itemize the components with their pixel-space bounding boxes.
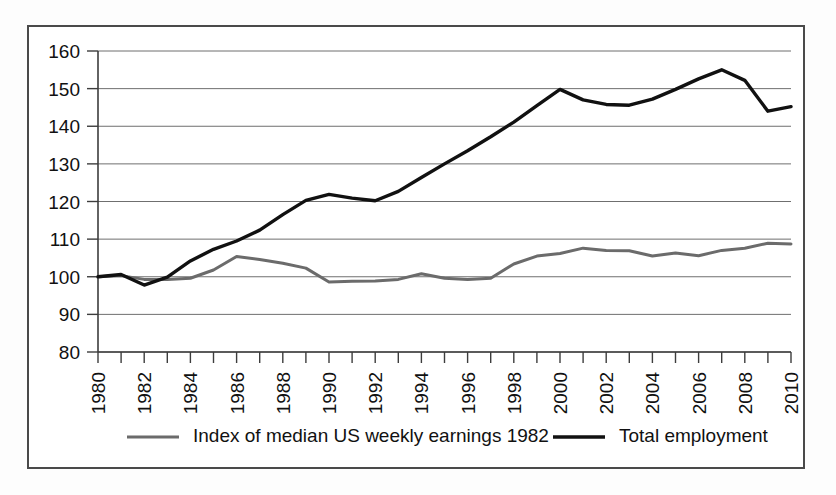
x-tick-group xyxy=(98,352,791,363)
gridline-group xyxy=(98,51,791,352)
y-tick-label: 160 xyxy=(48,41,80,62)
chart-frame: 8090100110120130140150160 19801982198419… xyxy=(27,25,805,469)
y-tick-label: 130 xyxy=(48,154,80,175)
line-chart: 8090100110120130140150160 19801982198419… xyxy=(29,27,803,467)
series-line-2 xyxy=(98,70,791,285)
chart-figure: 8090100110120130140150160 19801982198419… xyxy=(0,0,836,495)
x-tick-label: 1992 xyxy=(365,372,386,414)
y-tick-label: 150 xyxy=(48,79,80,100)
x-tick-label: 1980 xyxy=(88,372,109,414)
x-tick-label: 2002 xyxy=(596,372,617,414)
series-line-1 xyxy=(98,243,791,282)
y-tick-label: 120 xyxy=(48,192,80,213)
y-tick-group xyxy=(87,51,98,352)
x-tick-label: 1984 xyxy=(180,372,201,415)
y-tick-label: 80 xyxy=(59,342,80,363)
x-tick-label: 1990 xyxy=(319,372,340,414)
x-tick-label: 2004 xyxy=(642,372,663,415)
x-tick-label: 1986 xyxy=(227,372,248,414)
x-tick-label: 2008 xyxy=(735,372,756,414)
y-tick-label-group: 8090100110120130140150160 xyxy=(48,41,80,363)
series-group xyxy=(98,70,791,285)
x-tick-label: 2000 xyxy=(550,372,571,414)
y-tick-label: 100 xyxy=(48,267,80,288)
x-tick-label: 1996 xyxy=(458,372,479,414)
legend-group: Index of median US weekly earnings 1982T… xyxy=(127,425,769,446)
y-tick-label: 110 xyxy=(50,229,80,250)
x-tick-label: 2010 xyxy=(781,372,802,414)
x-tick-label: 1988 xyxy=(273,372,294,414)
x-tick-label-group: 1980198219841986198819901992199419961998… xyxy=(88,372,802,415)
x-tick-label: 1998 xyxy=(504,372,525,414)
x-tick-label: 1982 xyxy=(134,372,155,414)
x-tick-label: 1994 xyxy=(411,372,432,415)
x-tick-label: 2006 xyxy=(689,372,710,414)
y-tick-label: 90 xyxy=(59,304,80,325)
y-tick-label: 140 xyxy=(48,116,80,137)
legend-label-2: Total employment xyxy=(619,425,769,446)
legend-label-1: Index of median US weekly earnings 1982 xyxy=(193,425,549,446)
